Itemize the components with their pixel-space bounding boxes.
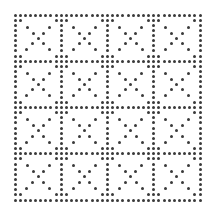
grid-dot [168,106,171,109]
grid-dot [163,106,166,109]
grid-dot [106,80,109,83]
x-mark-dot [181,170,184,173]
corner-dot [19,65,22,68]
grid-dot [157,106,160,109]
x-mark-dot [94,164,97,167]
x-mark-dot [42,170,45,173]
grid-dot [44,60,47,63]
x-mark-dot [48,187,51,190]
grid-dot [188,60,191,63]
grid-dot [142,106,145,109]
grid-dot [199,188,202,191]
grid-dot [188,14,191,17]
grid-dot [96,152,99,155]
corner-dot [147,111,150,114]
x-mark-dot [72,187,75,190]
grid-dot [199,65,202,68]
corner-dot [157,193,160,196]
grid-dot [106,65,109,68]
x-mark-dot [78,135,81,138]
grid-dot [106,152,109,155]
grid-dot [44,152,47,155]
corner-dot [157,19,160,22]
grid-dot [55,60,58,63]
grid-dot [101,199,104,202]
grid-dot [137,106,140,109]
grid-dot [199,29,202,32]
grid-dot [106,75,109,78]
grid-dot [55,152,58,155]
x-mark-dot [124,42,127,45]
grid-dot [199,193,202,196]
corner-dot [19,19,22,22]
x-mark-dot [78,181,81,184]
grid-dot [85,14,88,17]
x-mark-dot [31,181,34,184]
grid-dot [152,65,155,68]
grid-dot [60,75,63,78]
corner-dot [101,101,104,104]
grid-dot [152,132,155,135]
corner-dot [193,101,196,104]
x-mark-dot [124,78,127,81]
grid-dot [60,188,63,191]
grid-dot [142,199,145,202]
grid-dot [60,127,63,130]
grid-dot [152,24,155,27]
grid-dot [199,137,202,140]
x-mark-dot [42,78,45,81]
grid-dot [116,60,119,63]
grid-dot [55,106,58,109]
grid-dot [60,157,63,160]
grid-dot [183,60,186,63]
x-mark-dot [187,164,190,167]
grid-dot [101,152,104,155]
grid-dot [178,14,181,17]
corner-dot [55,111,58,114]
grid-dot [106,39,109,42]
grid-dot [157,14,160,17]
grid-dot [199,147,202,150]
x-mark-dot [129,83,132,86]
grid-dot [152,80,155,83]
grid-dot [157,152,160,155]
grid-dot [14,60,17,63]
corner-dot [147,19,150,22]
grid-dot [157,199,160,202]
x-mark-dot [26,72,29,75]
grid-dot [116,152,119,155]
grid-dot [152,121,155,124]
corner-dot [55,65,58,68]
grid-dot [163,152,166,155]
corner-dot [111,19,114,22]
grid-dot [14,152,17,155]
x-mark-dot [94,187,97,190]
grid-dot [127,152,130,155]
grid-dot [60,111,63,114]
x-mark-dot [135,135,138,138]
grid-dot [14,65,17,68]
x-mark-dot [124,88,127,91]
grid-dot [152,60,155,63]
x-mark-dot [31,88,34,91]
x-mark-dot [37,175,40,178]
x-mark-dot [42,181,45,184]
x-mark-dot [141,141,144,144]
x-mark-dot [141,187,144,190]
grid-dot [106,49,109,52]
grid-dot [85,60,88,63]
x-mark-dot [124,181,127,184]
x-mark-dot [48,94,51,97]
grid-dot [106,29,109,32]
grid-dot [199,55,202,58]
grid-dot [111,14,114,17]
grid-dot [132,14,135,17]
x-mark-dot [31,42,34,45]
grid-dot [152,96,155,99]
corner-dot [101,65,104,68]
x-mark-dot [170,135,173,138]
x-mark-dot [141,94,144,97]
grid-dot [34,152,37,155]
x-mark-dot [135,181,138,184]
grid-dot [14,157,17,160]
